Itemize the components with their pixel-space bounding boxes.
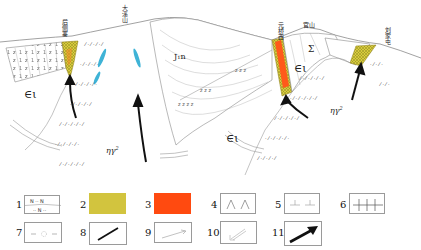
label-granite-right: ηγ2 (330, 106, 343, 115)
legend-num-7: 7 (16, 227, 22, 238)
granite-symbol: ηγ (106, 146, 116, 155)
svg-text:· ⁄ · ⁄ ·: · ⁄ · ⁄ · (370, 61, 383, 67)
legend-cross-line (349, 193, 385, 214)
svg-text:⁄ · ⁄ · ⁄ · ⁄ · ⁄: ⁄ · ⁄ · ⁄ · ⁄ · ⁄ (59, 161, 84, 167)
svg-text:⁄ · ⁄ · ⁄ · ⁄: ⁄ · ⁄ · ⁄ · ⁄ (84, 41, 104, 47)
legend-num-2: 2 (80, 199, 86, 210)
svg-text:· ⁄ · ⁄ · ⁄ · ⁄ ·: · ⁄ · ⁄ · ⁄ · ⁄ · (55, 141, 79, 147)
svg-text:⁄ · ⁄ · ⁄ · ⁄ ·: ⁄ · ⁄ · ⁄ · ⁄ · (75, 81, 97, 87)
place-guanshan: 官山 (302, 22, 316, 28)
place-yuanqiaoxi: 元桥西 (277, 22, 284, 40)
strata-middle: z z z z z z z z z z (150, 18, 272, 145)
place-houcezhai: 后侧寨 (61, 19, 68, 37)
svg-text:· ⁄ · ⁄ · ⁄ ·: · ⁄ · ⁄ · ⁄ · (80, 61, 99, 67)
svg-text:z z z z: z z z z (178, 101, 194, 107)
svg-text:·· N ··: ·· N ·· (33, 207, 47, 213)
legend-thick-arrow (284, 221, 322, 246)
svg-text:⁄ · ⁄ · ⁄ · ⁄: ⁄ · ⁄ · ⁄ · ⁄ (257, 155, 277, 161)
legend-double-arrow (220, 221, 257, 244)
legend-num-4: 4 (211, 199, 217, 210)
svg-text:⁄ · ⁄ · ⁄ · ⁄ · ⁄: ⁄ · ⁄ · ⁄ · ⁄ · ⁄ (59, 121, 84, 127)
legend-strata-n: N ·· N ·· N ·· (24, 195, 60, 214)
place-dayanshan: 大溪山 (121, 5, 128, 23)
legend-inverted-t (284, 193, 320, 214)
label-sigma: Σ (308, 44, 314, 54)
legend-yellow-zone (89, 193, 126, 214)
label-cambrian-right: ∈ι (294, 62, 306, 75)
legend-num-5: 5 (275, 199, 281, 210)
legend-caret (220, 193, 256, 214)
legend-black-line (89, 222, 127, 245)
legend-num-9: 9 (145, 227, 151, 238)
granite-sup: 2 (116, 145, 119, 151)
svg-text:z z z: z z z (200, 87, 211, 93)
legend-num-8: 8 (80, 227, 86, 238)
legend-num-3: 3 (145, 199, 151, 210)
label-jurassic: J₁n (174, 52, 186, 61)
legend-num-6: 6 (340, 199, 346, 210)
legend-orange-zone (154, 193, 191, 214)
granite-sup: 2 (340, 105, 343, 111)
svg-text:N ·· N: N ·· N (30, 198, 44, 204)
svg-text:⁄ · ⁄ · ⁄ · ⁄ · ⁄: ⁄ · ⁄ · ⁄ · ⁄ · ⁄ (274, 115, 299, 121)
svg-text:· ⁄ · ⁄ · ⁄ · ⁄ · ⁄: · ⁄ · ⁄ · ⁄ · ⁄ · ⁄ (290, 95, 318, 101)
legend-num-10: 10 (207, 227, 220, 238)
label-cambrian-left: ∈ι (24, 88, 36, 101)
place-liujiazhai: 刘家屯 (384, 27, 391, 45)
svg-text:z z z: z z z (235, 67, 246, 73)
strata-left (6, 42, 66, 82)
legend-num-11: 11 (272, 227, 285, 238)
legend-circle-dash (24, 222, 62, 243)
label-granite-left: ηγ2 (106, 146, 119, 155)
svg-text:⁄ · ⁄ ·: ⁄ · ⁄ · (379, 81, 390, 87)
granite-symbol: ηγ (330, 106, 340, 115)
label-cambrian-mid: ∈ι (226, 132, 238, 145)
svg-text:⁄ · ⁄ · ⁄ · ⁄ · ⁄: ⁄ · ⁄ · ⁄ · ⁄ · ⁄ (299, 75, 324, 81)
legend-thin-arrow (154, 222, 192, 243)
svg-text:· ⁄ · ⁄ · ⁄ · ⁄ ·: · ⁄ · ⁄ · ⁄ · ⁄ · (265, 135, 289, 141)
legend-num-1: 1 (16, 199, 22, 210)
